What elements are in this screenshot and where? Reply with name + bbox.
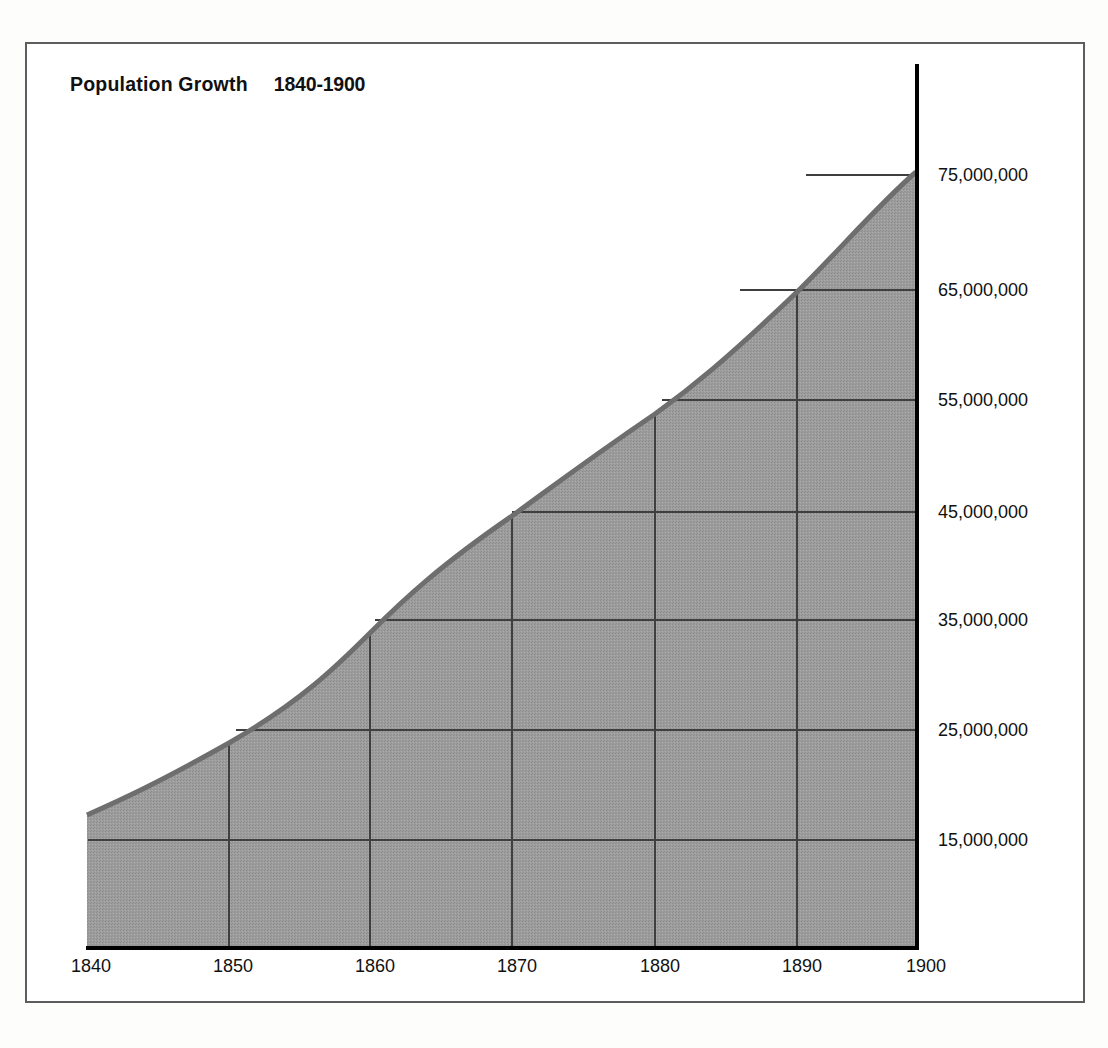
x-tick-label-1850: 1850 [213,957,253,975]
x-tick-label-1880: 1880 [640,957,680,975]
page-title: Population Growth1840-1900 [70,75,365,95]
x-tick-label-1840: 1840 [71,957,111,975]
y-tick-label-25m: 25,000,000 [938,721,1028,739]
y-tick-label-55m: 55,000,000 [938,391,1028,409]
x-tick-label-1900: 1900 [906,957,946,975]
x-tick-label-1860: 1860 [355,957,395,975]
chart-title-text: Population Growth [70,73,248,95]
y-tick-label-15m: 15,000,000 [938,831,1028,849]
chart-page: Population Growth1840-1900 [0,0,1108,1048]
y-tick-label-65m: 65,000,000 [938,281,1028,299]
x-tick-label-1890: 1890 [782,957,822,975]
y-tick-label-75m: 75,000,000 [938,166,1028,184]
chart-frame-border [25,42,1085,1003]
y-tick-label-45m: 45,000,000 [938,503,1028,521]
y-tick-label-35m: 35,000,000 [938,611,1028,629]
chart-title-range: 1840-1900 [274,73,365,95]
x-tick-label-1870: 1870 [497,957,537,975]
